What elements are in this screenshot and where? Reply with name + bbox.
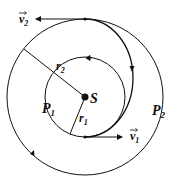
sun-point: [82, 94, 89, 101]
outer-radius-line: [24, 49, 85, 97]
inner-radius-label: r1: [79, 111, 88, 127]
velocity-2-label: v2: [19, 12, 28, 28]
aphelion-point: [83, 17, 86, 20]
transfer-orbit: [85, 19, 133, 137]
outer-radius-label: r2: [56, 59, 65, 75]
transfer-orbit-direction-arrow-icon: [130, 66, 135, 72]
velocity-1-label: v1: [130, 129, 139, 145]
inner-orbit-direction-arrow-icon: [86, 56, 92, 61]
hohmann-transfer-diagram: S r2 r1 P1 P2 v1 v2: [0, 0, 185, 183]
inner-orbit-label: P1: [42, 101, 55, 118]
sun-label: S: [90, 91, 98, 106]
outer-orbit-label: P2: [152, 103, 166, 120]
perihelion-point: [83, 135, 86, 138]
